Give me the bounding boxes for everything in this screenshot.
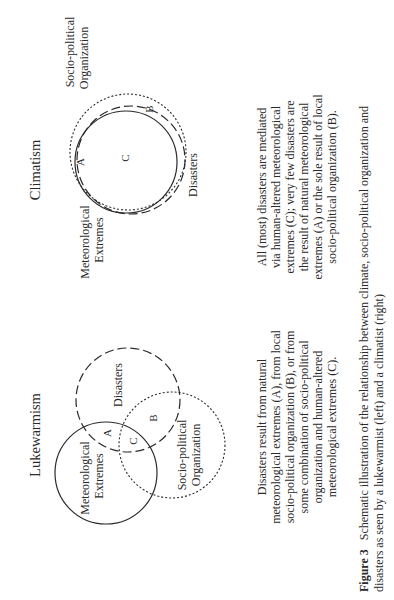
climatism-desc-line: extremes (C); very few disasters are — [283, 101, 297, 274]
climatism-desc-line: extremes (A) or the sole result of local — [311, 94, 325, 280]
figure-3: Climatism Socio-political Organization A… — [0, 0, 394, 600]
lukewarmism-disasters-circle — [76, 348, 180, 452]
lukewarmism-region-b: B — [147, 414, 159, 421]
lukewarmism-label-socio-political-2: Organization — [189, 424, 203, 486]
caption-text-line-1: Schematic illustration of the relationsh… — [357, 106, 371, 540]
lukewarmism-desc-line: meteorological extremes (A), from local — [269, 330, 283, 524]
climatism-desc-line: socio-political organization (B). — [325, 110, 339, 263]
lukewarmism-label-meteorological-2: Extremes — [92, 453, 106, 499]
lukewarmism-region-c: C — [127, 437, 139, 444]
lukewarmism-label-meteorological-1: Meteorological — [78, 441, 92, 515]
lukewarmism-desc-line: meteorological extremes (C). — [325, 357, 339, 497]
climatism-label-meteorological-2: Extremes — [92, 217, 106, 263]
climatism-region-b: B — [143, 105, 155, 112]
lukewarmism-desc-line: some combination of socio-political — [297, 340, 311, 514]
climatism-desc-line: All (most) disasters are mediated — [255, 108, 269, 267]
lukewarmism-panel: Lukewarmism Meteorological Extremes Disa… — [27, 330, 339, 524]
figure-caption: Figure 3 Schematic illustration of the r… — [357, 106, 386, 592]
climatism-desc-line: the result of natural meteorological — [297, 102, 311, 271]
climatism-desc-line: via human-altered meteorological — [269, 105, 283, 268]
climatism-description: All (most) disasters are mediated via hu… — [255, 94, 339, 280]
climatism-label-meteorological-1: Meteorological — [78, 205, 92, 279]
climatism-label-socio-political-2: Organization — [77, 27, 91, 89]
lukewarmism-region-a: A — [101, 429, 113, 437]
lukewarmism-description: Disasters result from natural meteorolog… — [255, 330, 339, 524]
lukewarmism-desc-line: socio-political organization (B), or fro… — [283, 330, 297, 523]
climatism-region-a: A — [74, 158, 86, 166]
climatism-label-socio-political-1: Socio-political — [63, 16, 77, 87]
climatism-panel: Climatism Socio-political Organization A… — [27, 16, 339, 279]
lukewarmism-desc-line: organization and human-altered — [311, 351, 325, 503]
caption-figure-label: Figure 3 — [357, 549, 371, 592]
caption-line-1: Figure 3 Schematic illustration of the r… — [357, 106, 371, 592]
lukewarmism-title: Lukewarmism — [27, 392, 43, 476]
climatism-title: Climatism — [27, 139, 43, 200]
caption-line-2: disasters as seen by a lukewarmist (left… — [372, 294, 386, 592]
lukewarmism-label-disasters: Disasters — [111, 363, 125, 407]
climatism-label-disasters: Disasters — [186, 153, 200, 197]
lukewarmism-desc-line: Disasters result from natural — [255, 358, 269, 495]
climatism-region-c: C — [119, 154, 131, 161]
lukewarmism-label-socio-political-1: Socio-political — [175, 419, 189, 490]
